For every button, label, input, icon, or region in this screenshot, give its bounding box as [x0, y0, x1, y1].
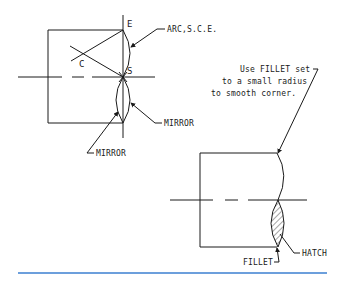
fillet-curve-upper [277, 153, 284, 200]
mirror-right-label: MIRROR [164, 119, 194, 128]
point-e-label: E [127, 19, 132, 29]
mirror-bottom-label: MIRROR [96, 149, 126, 158]
hatch-region [271, 200, 284, 247]
line-s-c [70, 46, 123, 77]
hatch-label: HATCH [302, 249, 327, 258]
arc-label: ARC,S.C.E. [167, 25, 217, 34]
mirror-arc-left [116, 77, 123, 123]
mirror-bottom-leader [87, 112, 118, 153]
right-figure: Use FILLET set to a small radius to smoo… [170, 65, 327, 267]
point-c-label: C [79, 59, 84, 69]
fillet-note-line-1: Use FILLET set [240, 65, 310, 74]
hatch-leader [280, 234, 300, 253]
line-e-c [71, 30, 123, 61]
point-s-label: S [127, 66, 132, 76]
fillet-note-line-3: to smooth corner. [211, 89, 296, 98]
left-figure: E C S ARC,S.C.E. MIRROR MIRROR [18, 15, 217, 158]
fillet-note-line-2: to a small radius [222, 77, 307, 86]
fillet-label: FILLET [243, 258, 273, 267]
mirror-arc-right [123, 77, 130, 123]
mirror-right-leader [131, 103, 162, 123]
arc-leader [131, 29, 165, 47]
fillet-leader [274, 248, 279, 262]
drawing-canvas: E C S ARC,S.C.E. MIRROR MIRROR Use FILLE… [0, 0, 340, 285]
